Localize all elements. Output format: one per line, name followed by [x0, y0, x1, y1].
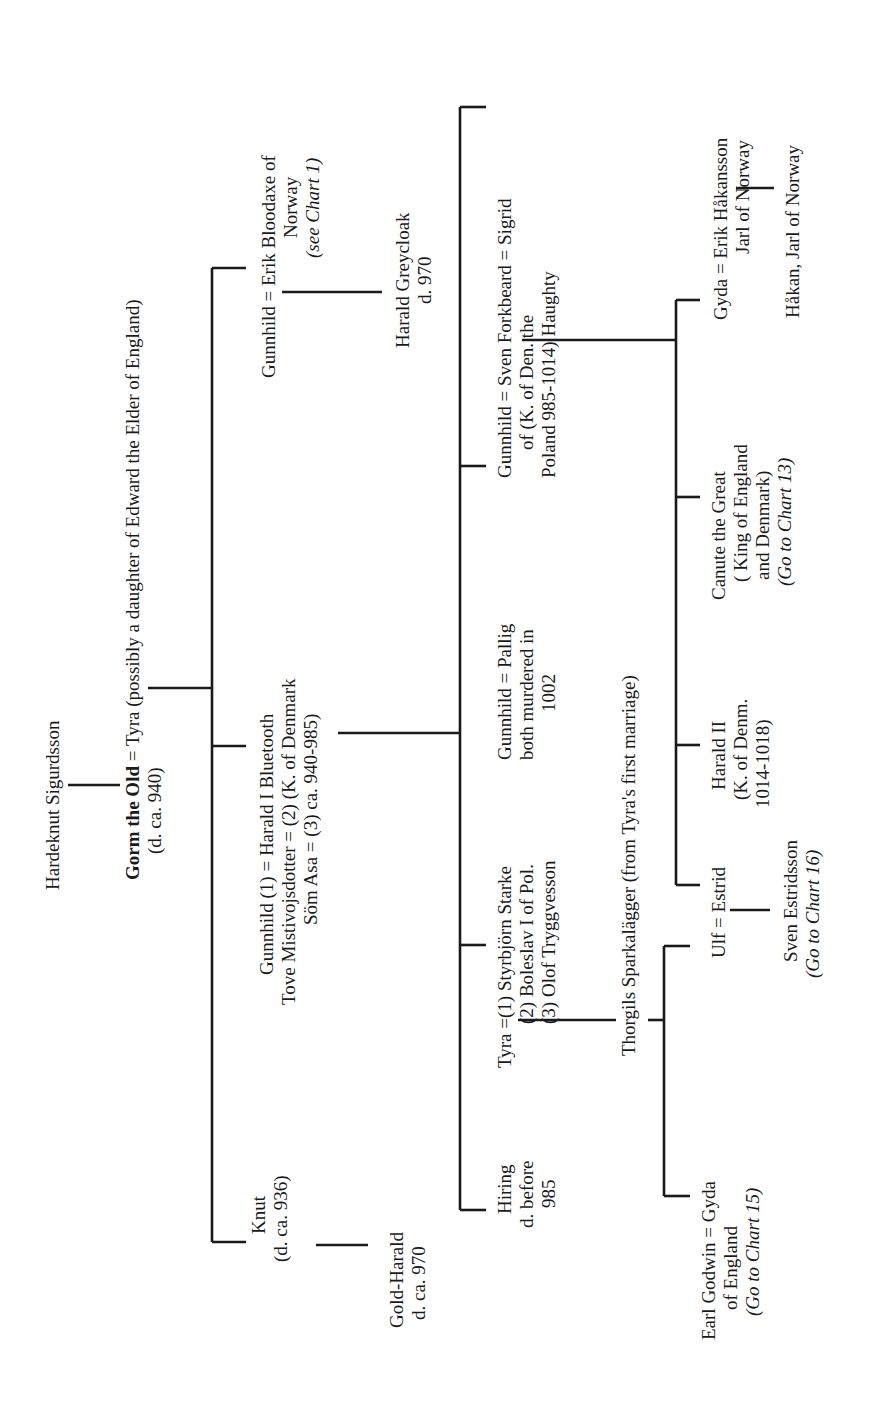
node-gunnhild-pallig: Gunnhild = Pallig both murdered in 1002 — [494, 624, 560, 760]
marriage-line-3: Söm Asa = (3) ca. 940-985) — [300, 678, 322, 1005]
node-ulf-estrid: Ulf = Estrid — [708, 867, 730, 958]
node-sven-forkbeard: Gunnhild = Sven Forkbeard = Sigrid of (K… — [494, 199, 560, 479]
node-gyda-erik-hakansson: Gyda = Erik Håkansson Jarl of Norway — [710, 138, 754, 320]
node-earl-godwin-gyda: Earl Godwin = Gyda of England (Go to Cha… — [698, 1181, 764, 1340]
couple-names: Ulf = Estrid — [708, 867, 730, 958]
chart-reference: (Go to Chart 13) — [774, 444, 796, 600]
title: Jarl of Norway — [732, 138, 754, 320]
marriage-sign: = — [122, 751, 143, 762]
node-sven-estridsson: Sven Estridsson (Go to Chart 16) — [780, 840, 824, 978]
death-date: d. 970 — [414, 212, 436, 348]
node-knut: Knut (d. ca. 936) — [248, 1175, 292, 1262]
chart-reference: (Go to Chart 16) — [802, 840, 824, 978]
node-canute-the-great: Canute the Great ( King of England and D… — [708, 444, 796, 600]
person-name: Harald Greycloak — [392, 212, 414, 348]
marriage-line-2: of (K. of Den. the — [516, 199, 538, 479]
person-name: Harald II — [708, 699, 730, 808]
title-line-2: and Denmark) — [752, 444, 774, 600]
death-date: (d. ca. 936) — [270, 1175, 292, 1262]
title: (K. of Denm. — [730, 699, 752, 808]
spouse-tyra: Tyra (possibly a daughter of Edward the … — [122, 299, 143, 746]
couple-names: Gyda = Erik Håkansson — [710, 138, 732, 320]
gorm-death-date: (d. ca. 940) — [144, 299, 166, 880]
person-name: Sven Estridsson — [780, 840, 802, 978]
person-name-gorm: Gorm the Old — [122, 766, 143, 880]
country: Norway — [280, 155, 302, 378]
title-line-1: ( King of England — [730, 444, 752, 600]
person-name: Knut — [248, 1175, 270, 1262]
year: 1002 — [538, 624, 560, 760]
chart-reference: (Go to Chart 15) — [742, 1181, 764, 1340]
person-name: Canute the Great — [708, 444, 730, 600]
year: 985 — [538, 1160, 560, 1228]
person-name: Hardeknut Sigurdsson — [42, 721, 64, 890]
person-name: Thorgils Sparkalägger (from Tyra's first… — [618, 675, 640, 1056]
node-harald-bluetooth: Gunnhild (1) = Harald I Bluetooth Tove M… — [256, 678, 322, 1005]
reign: 1014-1018) — [752, 699, 774, 808]
marriage-line-3: (3) Olof Tryggvesson — [538, 860, 560, 1068]
note: both murdered in — [516, 624, 538, 760]
death-date: d. ca. 970 — [408, 1232, 430, 1328]
person-name: Hiring — [494, 1160, 516, 1228]
node-hardeknut-sigurdsson: Hardeknut Sigurdsson — [42, 721, 64, 890]
person-name: Gold-Harald — [386, 1232, 408, 1328]
node-tyra-marriages: Tyra =(1) Styrbjörn Starke (2) Boleslav … — [494, 860, 560, 1068]
node-thorgils-sparkalagger: Thorgils Sparkalägger (from Tyra's first… — [618, 675, 640, 1056]
node-gunnhild-erik-bloodaxe: Gunnhild = Erik Bloodaxe of Norway (see … — [258, 155, 324, 378]
node-harald-greycloak: Harald Greycloak d. 970 — [392, 212, 436, 348]
node-hiring: Hiring d. before 985 — [494, 1160, 560, 1228]
node-hakan: Håkan, Jarl of Norway — [782, 145, 804, 318]
genealogy-chart: Hardeknut Sigurdsson Gorm the Old = Tyra… — [0, 0, 870, 1427]
marriage-line-1: Tyra =(1) Styrbjörn Starke — [494, 860, 516, 1068]
couple-names: Earl Godwin = Gyda — [698, 1181, 720, 1340]
person-name: Håkan, Jarl of Norway — [782, 145, 804, 318]
chart-reference: (see Chart 1) — [302, 155, 324, 378]
couple-names: Gunnhild = Pallig — [494, 624, 516, 760]
title: of England — [720, 1181, 742, 1340]
marriage-line-1: Gunnhild (1) = Harald I Bluetooth — [256, 678, 278, 1005]
marriage-line-1: Gunnhild = Sven Forkbeard = Sigrid — [494, 199, 516, 479]
node-gorm-the-old: Gorm the Old = Tyra (possibly a daughter… — [122, 299, 166, 880]
couple-names: Gunnhild = Erik Bloodaxe of — [258, 155, 280, 378]
marriage-line-2: Tove Mistivojsdotter = (2) (K. of Denmar… — [278, 678, 300, 1005]
node-gold-harald: Gold-Harald d. ca. 970 — [386, 1232, 430, 1328]
node-harald-ii: Harald II (K. of Denm. 1014-1018) — [708, 699, 774, 808]
marriage-line-3: Poland 985-1014) Haughty — [538, 199, 560, 479]
death-note: d. before — [516, 1160, 538, 1228]
marriage-line-2: (2) Boleslav I of Pol. — [516, 860, 538, 1068]
